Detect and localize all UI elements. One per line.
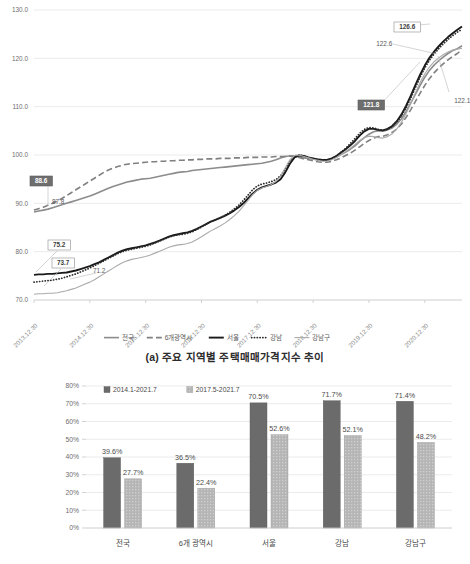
- bar-category-label: 강남구: [405, 538, 426, 548]
- y-tick-label: 40%: [65, 453, 79, 460]
- y-tick-label: 80.0: [16, 248, 29, 255]
- legend-label-6개광역시: 6개광역시: [165, 333, 193, 342]
- bar-value-label: 27.7%: [123, 468, 144, 477]
- bar-category-label: 6개 광역시: [179, 538, 213, 548]
- y-tick-label: 110.0: [12, 103, 28, 110]
- bar-value-label: 52.6%: [269, 424, 290, 433]
- callout-leader: [44, 269, 61, 286]
- line-chart-gridlines: [34, 10, 462, 300]
- bar-chart-y-axis: 0%10%20%30%40%50%60%70%80%: [65, 382, 86, 531]
- bar-2014.1-2021.7-전국: [104, 458, 121, 528]
- figure-caption-a: (a) 주요 지역별 주택매매가격지수 추이: [0, 346, 470, 368]
- bar-value-label: 36.5%: [175, 453, 196, 462]
- x-tick-label: 2013.12.30: [12, 321, 39, 348]
- bar-2017.5-2021.7-강남: [344, 436, 361, 528]
- line-series-강남: [34, 29, 462, 282]
- line-series-전국: [34, 46, 462, 212]
- bar-value-label: 71.4%: [395, 391, 416, 400]
- y-tick-label: 30%: [65, 471, 79, 478]
- legend-label-강남: 강남: [270, 333, 282, 341]
- callout-label: 122.1: [454, 97, 470, 104]
- bar-2017.5-2021.7-전국: [125, 479, 142, 528]
- bar-chart-legend: 2014.1-2021.72017.5-2021.7: [104, 386, 240, 393]
- y-tick-label: 120.0: [12, 55, 28, 62]
- bar-category-label: 서울: [262, 539, 276, 548]
- bar-2014.1-2021.7-6개 광역시: [177, 463, 194, 528]
- y-tick-label: 10%: [65, 507, 79, 514]
- y-tick-label: 0%: [69, 524, 79, 531]
- bar-2017.5-2021.7-6개 광역시: [198, 488, 215, 528]
- callout-leader: [393, 44, 437, 54]
- callout-label: 71.2: [93, 267, 106, 274]
- callout-label: 121.8: [363, 101, 379, 108]
- line-series-강남구: [34, 48, 462, 294]
- bar-2017.5-2021.7-서울: [271, 435, 288, 528]
- line-chart-callouts: 88.687.875.273.771.2126.6122.6121.8122.1: [30, 22, 470, 286]
- bar-2017.5-2021.7-강남구: [417, 442, 434, 528]
- y-tick-label: 130.0: [12, 6, 28, 13]
- bar-value-label: 71.7%: [322, 390, 343, 399]
- bar-category-label: 강남: [335, 538, 349, 548]
- figure-root: 70.080.090.0100.0110.0120.0130.02013.12.…: [0, 0, 470, 564]
- legend-label-2017.5-2021.7: 2017.5-2021.7: [196, 386, 240, 393]
- bar-value-label: 48.2%: [416, 432, 437, 441]
- y-tick-label: 60%: [65, 418, 79, 425]
- figure-caption-panel: (a) 주요 지역별 주택매매가격지수 추이: [0, 346, 470, 368]
- legend-label-강남구: 강남구: [312, 333, 330, 342]
- bar-value-label: 22.4%: [196, 478, 217, 487]
- bar-2014.1-2021.7-강남구: [396, 401, 413, 528]
- x-tick-label: 2017.12.30: [235, 321, 262, 348]
- bar-category-label: 전국: [116, 538, 130, 548]
- bar-chart-bars: [104, 401, 435, 528]
- line-chart-series-group: [34, 26, 462, 294]
- legend-swatch-2017.5-2021.7: [187, 387, 193, 393]
- line-chart-y-axis: 70.080.090.0100.0110.0120.0130.0: [12, 6, 28, 303]
- bar-chart-value-labels: 39.6%27.7%36.5%22.4%70.5%52.6%71.7%52.1%…: [102, 390, 437, 487]
- x-tick-label: 2019.12.30: [347, 321, 374, 348]
- bar-2014.1-2021.7-서울: [250, 403, 267, 528]
- y-tick-label: 100.0: [12, 151, 28, 158]
- legend-label-2014.1-2021.7: 2014.1-2021.7: [113, 386, 157, 393]
- callout-label: 73.7: [57, 259, 70, 266]
- callout-label: 122.6: [376, 40, 392, 47]
- legend-label-서울: 서울: [227, 333, 239, 342]
- line-series-서울: [34, 26, 462, 274]
- y-tick-label: 20%: [65, 489, 79, 496]
- callout-label: 75.2: [53, 241, 66, 248]
- callout-label: 87.8: [52, 198, 65, 205]
- callout-label: 126.6: [399, 23, 415, 30]
- price-increase-rate-bar-chart: 0%10%20%30%40%50%60%70%80%39.6%27.7%36.5…: [0, 372, 470, 564]
- bar-value-label: 39.6%: [102, 447, 123, 456]
- callout-leader: [438, 56, 449, 92]
- bar-value-label: 70.5%: [248, 392, 269, 401]
- bar-value-label: 52.1%: [343, 425, 364, 434]
- y-tick-label: 50%: [65, 436, 79, 443]
- callout-label: 88.6: [35, 177, 48, 184]
- y-tick-label: 90.0: [16, 200, 29, 207]
- y-tick-label: 80%: [65, 382, 79, 389]
- line-chart-panel: 70.080.090.0100.0110.0120.0130.02013.12.…: [0, 0, 470, 348]
- bar-chart-category-labels: 전국6개 광역시서울강남강남구: [116, 538, 426, 548]
- x-tick-label: 2020.12.30: [403, 321, 430, 348]
- y-tick-label: 70%: [65, 400, 79, 407]
- legend-swatch-2014.1-2021.7: [104, 387, 110, 393]
- line-series-6개광역시: [34, 50, 462, 210]
- legend-label-전국: 전국: [122, 333, 134, 342]
- house-price-index-line-chart: 70.080.090.0100.0110.0120.0130.02013.12.…: [0, 0, 470, 348]
- bar-2014.1-2021.7-강남: [323, 401, 340, 528]
- x-tick-label: 2014.12.30: [68, 321, 95, 348]
- bar-chart-panel: 0%10%20%30%40%50%60%70%80%39.6%27.7%36.5…: [0, 372, 470, 564]
- y-tick-label: 70.0: [16, 296, 29, 303]
